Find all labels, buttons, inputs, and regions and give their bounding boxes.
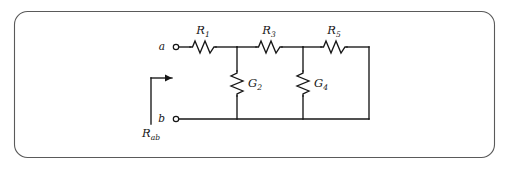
circuit-figure: a b R1 R3 R5 G2 G4 Rab bbox=[0, 0, 509, 169]
terminal-b-label: b bbox=[158, 112, 165, 124]
resistor-r5-symbol-text: R bbox=[326, 23, 336, 37]
resistor-r1-subscript: 1 bbox=[205, 30, 210, 39]
resistor-r3-subscript: 3 bbox=[271, 30, 276, 39]
resistor-r5-label: R5 bbox=[326, 23, 341, 39]
rab-arrow-head bbox=[165, 75, 172, 82]
input-resistance-label: Rab bbox=[141, 126, 160, 142]
conductance-g4-symbol-text: G bbox=[314, 76, 323, 90]
resistor-r3-symbol bbox=[256, 41, 282, 53]
terminal-a-dot bbox=[173, 44, 178, 49]
conductance-g2-subscript: 2 bbox=[256, 83, 262, 92]
terminal-b-dot bbox=[173, 116, 178, 121]
resistor-g2-symbol bbox=[231, 71, 243, 96]
conductance-g2-label: G2 bbox=[248, 76, 262, 92]
resistor-g4-symbol bbox=[297, 71, 309, 96]
resistor-r1-label: R1 bbox=[195, 23, 210, 39]
resistor-r3-symbol-text: R bbox=[261, 23, 271, 37]
conductance-g4-subscript: 4 bbox=[322, 83, 328, 92]
circuit-diagram: a b R1 R3 R5 G2 G4 Rab bbox=[0, 0, 509, 169]
input-resistance-symbol-text: R bbox=[141, 126, 151, 140]
input-resistance-subscript: ab bbox=[151, 133, 161, 142]
resistor-r5-subscript: 5 bbox=[336, 30, 341, 39]
conductance-g4-label: G4 bbox=[314, 76, 328, 92]
terminal-a-label: a bbox=[159, 40, 165, 52]
conductance-g2-symbol-text: G bbox=[248, 76, 257, 90]
resistor-r1-symbol-text: R bbox=[195, 23, 205, 37]
resistor-r5-symbol bbox=[321, 41, 347, 53]
resistor-r1-symbol bbox=[190, 41, 216, 53]
resistor-r3-label: R3 bbox=[261, 23, 276, 39]
